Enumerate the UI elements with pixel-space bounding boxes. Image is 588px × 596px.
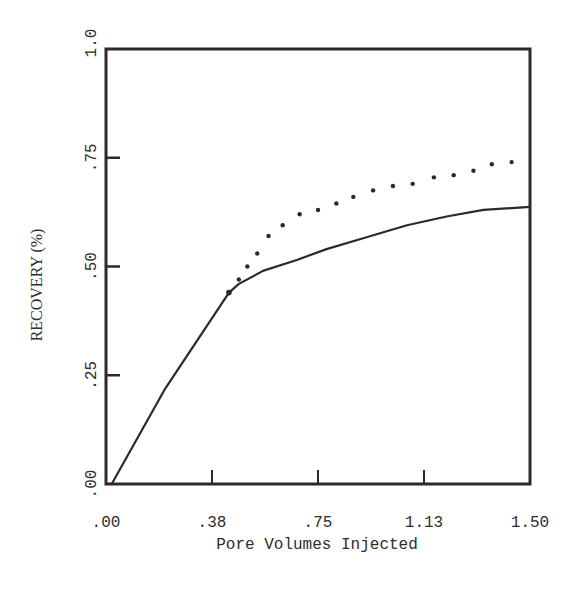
data-point xyxy=(237,277,241,281)
data-point xyxy=(245,264,249,268)
data-point xyxy=(255,251,259,255)
y-tick-label: .50 xyxy=(83,252,101,281)
data-point xyxy=(451,173,455,177)
y-tick-label: .25 xyxy=(83,361,101,390)
y-tick-label: 1.0 xyxy=(83,29,101,58)
data-point xyxy=(297,212,301,216)
data-point xyxy=(509,160,513,164)
x-tick-label: 1.13 xyxy=(405,514,443,532)
plot-frame xyxy=(106,49,530,484)
x-tick-label: .38 xyxy=(198,514,227,532)
x-tick-label: .75 xyxy=(304,514,333,532)
data-point xyxy=(316,208,320,212)
x-tick-label: 1.50 xyxy=(511,514,549,532)
data-point xyxy=(334,201,338,205)
data-point xyxy=(371,188,375,192)
data-point xyxy=(280,223,284,227)
data-point xyxy=(432,175,436,179)
solid-recovery-line xyxy=(112,207,530,484)
data-point xyxy=(471,169,475,173)
data-point xyxy=(266,234,270,238)
data-point xyxy=(351,195,355,199)
data-point xyxy=(226,290,232,296)
x-tick-label: .00 xyxy=(92,514,121,532)
y-axis-title: RECOVERY (%) xyxy=(28,229,46,342)
y-tick-label: .00 xyxy=(83,470,101,499)
data-point xyxy=(391,184,395,188)
data-point xyxy=(410,182,414,186)
data-point xyxy=(490,162,494,166)
dotted-recovery-series xyxy=(226,160,514,296)
y-axis-ticks: .00.25.50.751.0 xyxy=(83,29,120,499)
x-axis-ticks: .00.38.751.131.50 xyxy=(92,470,550,532)
y-tick-label: .75 xyxy=(83,143,101,172)
x-axis-title: Pore Volumes Injected xyxy=(216,536,418,554)
recovery-chart: .00.25.50.751.0 .00.38.751.131.50 Pore V… xyxy=(0,0,588,596)
